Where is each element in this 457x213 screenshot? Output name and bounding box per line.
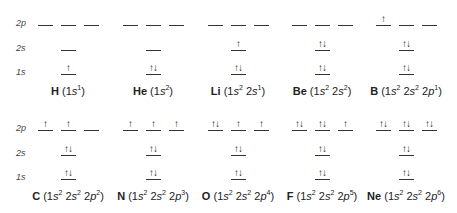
electron-arrow-icon: ↑↓ bbox=[315, 63, 330, 73]
orbital-2p-line bbox=[208, 130, 223, 131]
orbital-2p-line bbox=[231, 130, 246, 131]
electron-arrow-icon: ↑ bbox=[169, 119, 184, 129]
element-config-label: B (1s2 2s2 2p1) bbox=[370, 84, 442, 97]
orbital-2p-line bbox=[208, 25, 223, 26]
orbital-2p-line bbox=[254, 130, 269, 131]
electron-arrow-icon: ↑↓ bbox=[315, 39, 330, 49]
orbital-2p-line bbox=[292, 130, 307, 131]
orbital-2p-line bbox=[315, 130, 330, 131]
element-config-label: Ne (1s2 2s2 2p6) bbox=[367, 189, 445, 202]
orbital-2s-line bbox=[231, 155, 246, 156]
electron-arrow-icon: ↑↓ bbox=[208, 119, 223, 129]
orbital-2p-line bbox=[169, 130, 184, 131]
electron-arrow-icon: ↑↓ bbox=[61, 144, 76, 154]
orbital-2s-line bbox=[399, 50, 414, 51]
electron-arrow-icon: ↑↓ bbox=[292, 119, 307, 129]
orbital-2p-line bbox=[84, 25, 99, 26]
electron-arrow-icon: ↑↓ bbox=[399, 119, 414, 129]
electron-arrow-icon: ↑↓ bbox=[399, 144, 414, 154]
electron-arrow-icon: ↑↓ bbox=[422, 119, 437, 129]
orbital-2s-line bbox=[315, 155, 330, 156]
orbital-2p-line bbox=[422, 130, 437, 131]
orbital-2p-line bbox=[61, 25, 76, 26]
orbital-1s-line bbox=[399, 179, 414, 180]
orbital-1s-line bbox=[231, 179, 246, 180]
orbital-2s-line bbox=[61, 155, 76, 156]
electron-arrow-icon: ↑ bbox=[376, 14, 391, 24]
orbital-2p-line bbox=[123, 130, 138, 131]
orbital-2p-line bbox=[376, 25, 391, 26]
electron-arrow-icon: ↑ bbox=[61, 119, 76, 129]
orbital-2p-line bbox=[422, 25, 437, 26]
level-label-1s: 1s bbox=[16, 172, 26, 182]
orbital-2p-line bbox=[146, 130, 161, 131]
orbital-2s-line bbox=[146, 155, 161, 156]
electron-arrow-icon: ↑ bbox=[61, 63, 76, 73]
orbital-1s-line bbox=[61, 179, 76, 180]
level-label-1s: 1s bbox=[16, 67, 26, 77]
orbital-1s-line bbox=[399, 74, 414, 75]
electron-arrow-icon: ↑ bbox=[338, 119, 353, 129]
electron-arrow-icon: ↑↓ bbox=[315, 144, 330, 154]
level-label-2p: 2p bbox=[16, 18, 26, 28]
electron-arrow-icon: ↑↓ bbox=[146, 63, 161, 73]
orbital-1s-line bbox=[146, 179, 161, 180]
orbital-2s-line bbox=[61, 50, 76, 51]
element-config-label: Li (1s2 2s1) bbox=[211, 84, 265, 97]
electron-arrow-icon: ↑↓ bbox=[231, 144, 246, 154]
orbital-2p-line bbox=[38, 130, 53, 131]
orbital-2p-line bbox=[315, 25, 330, 26]
orbital-2p-line bbox=[169, 25, 184, 26]
orbital-1s-line bbox=[231, 74, 246, 75]
electron-arrow-icon: ↑ bbox=[254, 119, 269, 129]
orbital-2s-line bbox=[399, 155, 414, 156]
orbital-2s-line bbox=[146, 50, 161, 51]
electron-arrow-icon: ↑↓ bbox=[399, 39, 414, 49]
orbital-1s-line bbox=[315, 74, 330, 75]
element-config-label: C (1s2 2s2 2p2) bbox=[32, 189, 104, 202]
level-label-2s: 2s bbox=[16, 43, 26, 53]
orbital-2p-line bbox=[38, 25, 53, 26]
element-config-label: Be (1s2 2s2) bbox=[293, 84, 352, 97]
electron-arrow-icon: ↑↓ bbox=[146, 168, 161, 178]
element-config-label: F (1s2 2s2 2p5) bbox=[287, 189, 357, 202]
orbital-2p-line bbox=[84, 130, 99, 131]
level-label-2s: 2s bbox=[16, 148, 26, 158]
electron-arrow-icon: ↑ bbox=[123, 119, 138, 129]
orbital-2p-line bbox=[338, 130, 353, 131]
orbital-2s-line bbox=[315, 50, 330, 51]
electron-arrow-icon: ↑↓ bbox=[376, 119, 391, 129]
orbital-2p-line bbox=[376, 130, 391, 131]
electron-arrow-icon: ↑↓ bbox=[231, 63, 246, 73]
electron-arrow-icon: ↑↓ bbox=[315, 119, 330, 129]
element-config-label: He (1s2) bbox=[133, 84, 173, 97]
orbital-1s-line bbox=[61, 74, 76, 75]
element-config-label: N (1s2 2s2 2p3) bbox=[117, 189, 189, 202]
orbital-1s-line bbox=[315, 179, 330, 180]
orbital-2p-line bbox=[292, 25, 307, 26]
electron-arrow-icon: ↑↓ bbox=[231, 168, 246, 178]
orbital-2s-line bbox=[231, 50, 246, 51]
electron-arrow-icon: ↑↓ bbox=[399, 63, 414, 73]
level-label-2p: 2p bbox=[16, 123, 26, 133]
electron-arrow-icon: ↑ bbox=[231, 39, 246, 49]
electron-arrow-icon: ↑ bbox=[146, 119, 161, 129]
orbital-2p-line bbox=[61, 130, 76, 131]
orbital-2p-line bbox=[123, 25, 138, 26]
orbital-2p-line bbox=[231, 25, 246, 26]
orbital-1s-line bbox=[146, 74, 161, 75]
orbital-2p-line bbox=[338, 25, 353, 26]
electron-arrow-icon: ↑↓ bbox=[61, 168, 76, 178]
electron-arrow-icon: ↑↓ bbox=[399, 168, 414, 178]
electron-arrow-icon: ↑ bbox=[38, 119, 53, 129]
electron-arrow-icon: ↑↓ bbox=[315, 168, 330, 178]
element-config-label: H (1s1) bbox=[51, 84, 85, 97]
orbital-2p-line bbox=[254, 25, 269, 26]
electron-arrow-icon: ↑ bbox=[231, 119, 246, 129]
orbital-2p-line bbox=[146, 25, 161, 26]
orbital-2p-line bbox=[399, 25, 414, 26]
orbital-2p-line bbox=[399, 130, 414, 131]
electron-arrow-icon: ↑↓ bbox=[146, 144, 161, 154]
element-config-label: O (1s2 2s2 2p4) bbox=[202, 189, 274, 202]
